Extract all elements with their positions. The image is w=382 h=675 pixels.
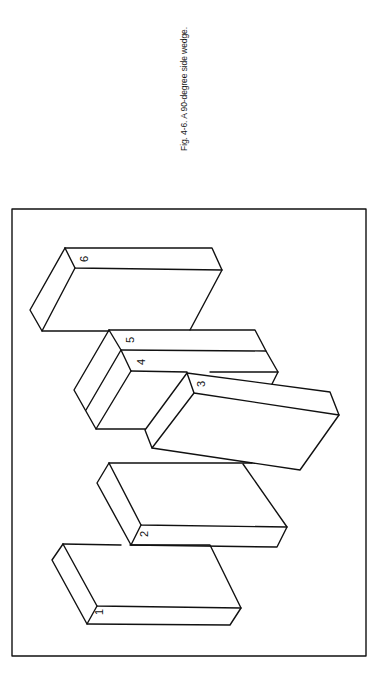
block-label-4: 4 (135, 359, 147, 365)
figure-frame (12, 209, 366, 656)
block-label-6: 6 (78, 256, 90, 262)
block-2 (97, 463, 287, 547)
block-1 (52, 544, 241, 625)
block-label-5: 5 (124, 337, 136, 343)
block-6 (30, 248, 222, 331)
block-label-3: 3 (195, 381, 207, 387)
wedge-diagram: 1 2 3 4 5 6 (0, 0, 382, 675)
block-4-5 (74, 330, 278, 429)
block-label-1: 1 (93, 609, 105, 615)
block-label-2: 2 (138, 531, 150, 537)
block-3 (145, 373, 339, 470)
